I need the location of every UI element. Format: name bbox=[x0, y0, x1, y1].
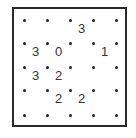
cell-clue[interactable] bbox=[93, 64, 116, 88]
grid-dot bbox=[46, 114, 49, 117]
cell-clue[interactable]: 2 bbox=[47, 87, 70, 111]
puzzle-board: 33013222 bbox=[12, 7, 127, 127]
cell-clue[interactable]: 1 bbox=[93, 40, 116, 64]
cell-clue[interactable]: 2 bbox=[47, 64, 70, 88]
grid-dot bbox=[69, 114, 72, 117]
cell-clue[interactable]: 3 bbox=[24, 64, 47, 88]
grid-dot bbox=[23, 114, 26, 117]
cell-clue[interactable]: 0 bbox=[47, 40, 70, 64]
cell-clue[interactable]: 2 bbox=[70, 87, 93, 111]
cell-clue[interactable] bbox=[93, 87, 116, 111]
cell-clue[interactable]: 3 bbox=[70, 17, 93, 41]
cell-clue[interactable] bbox=[24, 17, 47, 41]
cell-clue[interactable] bbox=[24, 87, 47, 111]
cell-clue[interactable] bbox=[70, 40, 93, 64]
cell-clue[interactable]: 3 bbox=[24, 40, 47, 64]
grid-dot bbox=[92, 114, 95, 117]
cell-clue[interactable] bbox=[47, 17, 70, 41]
cell-clue[interactable] bbox=[70, 64, 93, 88]
grid-dot bbox=[115, 114, 118, 117]
cell-clue[interactable] bbox=[93, 17, 116, 41]
